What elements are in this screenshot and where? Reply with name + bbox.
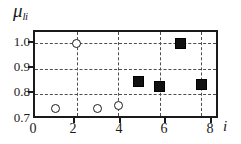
plot-area [33,30,218,118]
gridline-horizontal [35,94,216,95]
data-point-filled-squares [196,79,207,90]
gridline-horizontal [35,69,216,70]
x-tick-label: 8 [203,122,217,136]
gridline-vertical [160,32,161,116]
x-tick-label: 0 [26,122,40,136]
y-axis-label: μli [13,1,28,22]
y-axis-label-symbol: μ [13,0,23,21]
data-point-open-circles [93,104,102,113]
data-point-open-circles [72,39,81,48]
gridline-vertical [201,32,202,116]
data-point-filled-squares [154,81,165,92]
data-point-open-circles [51,104,60,113]
y-axis-label-subscript: li [23,10,28,22]
data-point-filled-squares [133,76,144,87]
data-point-open-circles [114,101,123,110]
x-tick-label: 6 [157,122,171,136]
data-point-filled-squares [175,38,186,49]
x-tick-label: 2 [66,122,80,136]
x-tick-label: 4 [112,122,126,136]
x-axis-label: i [223,119,227,134]
gridline-horizontal [35,43,216,44]
chart-figure: μli i 1.0 0.9 0.8 0.7 0 2 4 6 8 [0,0,241,144]
